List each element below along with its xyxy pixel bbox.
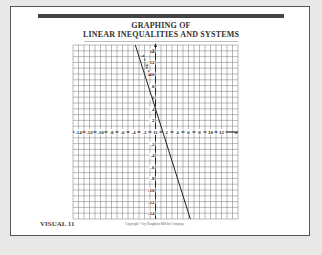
svg-text:-12: -12 — [86, 130, 93, 135]
svg-text:-12: -12 — [148, 200, 155, 205]
svg-text:10: 10 — [208, 130, 214, 135]
svg-text:-6: -6 — [120, 130, 125, 135]
svg-text:-10: -10 — [97, 130, 104, 135]
svg-text:12: 12 — [219, 130, 225, 135]
svg-text:-4: -4 — [131, 130, 136, 135]
svg-text:-14: -14 — [75, 130, 82, 135]
svg-text:-6: -6 — [150, 165, 155, 170]
svg-text:-14: -14 — [148, 211, 155, 216]
svg-text:-2: -2 — [142, 130, 147, 135]
svg-text:-8: -8 — [109, 130, 114, 135]
svg-text:-10: -10 — [148, 188, 155, 193]
svg-text:O: O — [154, 130, 158, 135]
coordinate-grid: -14-12-10-8-6-4-2O24681012x1412108642-2-… — [0, 0, 322, 255]
svg-text:-4: -4 — [150, 153, 155, 158]
svg-text:12: 12 — [150, 60, 156, 65]
svg-text:x: x — [234, 130, 238, 135]
svg-text:-2: -2 — [150, 142, 155, 147]
copyright-text: Copyright © by Houghton Mifflin Company. — [125, 222, 184, 226]
svg-text:-8: -8 — [150, 176, 155, 181]
visual-label: VISUAL 11 — [40, 220, 74, 228]
